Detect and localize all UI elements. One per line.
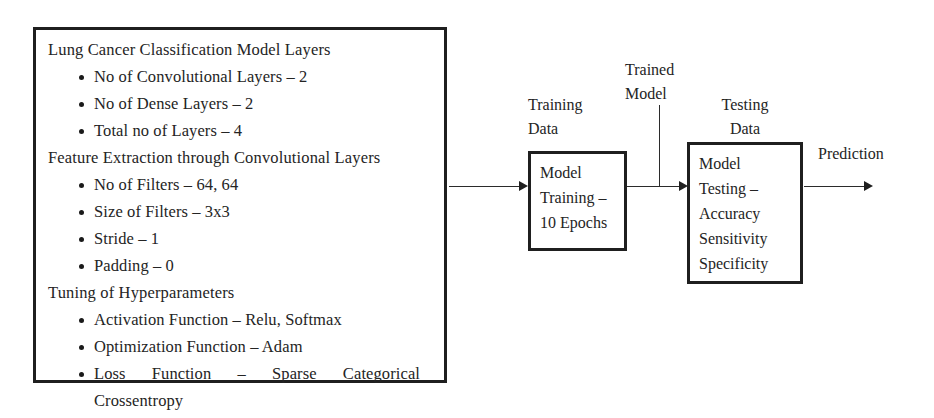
specification-content: Lung Cancer Classification Model Layers … bbox=[48, 36, 436, 414]
list-item: No of Convolutional Layers – 2 bbox=[48, 63, 436, 90]
list-item: Loss Function – Sparse Categorical Cross… bbox=[48, 360, 436, 414]
label-testing-data: Testing Data bbox=[687, 93, 803, 141]
list-item: Activation Function – Relu, Softmax bbox=[48, 306, 436, 333]
model-testing-line-1: Model bbox=[699, 151, 796, 176]
section-list-model-layers: No of Convolutional Layers – 2 No of Den… bbox=[48, 63, 436, 144]
model-testing-box: Model Testing – Accuracy Sensitivity Spe… bbox=[687, 142, 803, 284]
connector-training-to-testing bbox=[627, 186, 681, 187]
label-trained-model: Trained Model bbox=[625, 58, 674, 106]
connector-trained-model-leader bbox=[659, 105, 660, 186]
model-testing-line-3: Accuracy bbox=[699, 201, 796, 226]
section-list-hyperparameters: Activation Function – Relu, Softmax Opti… bbox=[48, 306, 436, 414]
connector-panel-to-training bbox=[449, 186, 521, 187]
section-heading-hyperparameters: Tuning of Hyperparameters bbox=[48, 279, 436, 306]
arrow-head-icon bbox=[519, 181, 528, 191]
label-training-data: Training Data bbox=[528, 93, 583, 141]
connector-testing-to-prediction bbox=[804, 186, 866, 187]
model-training-line-3: 10 Epochs bbox=[540, 210, 620, 235]
label-prediction: Prediction bbox=[818, 142, 884, 166]
list-item: Optimization Function – Adam bbox=[48, 333, 436, 360]
arrow-head-icon bbox=[864, 181, 873, 191]
model-testing-line-4: Sensitivity bbox=[699, 226, 796, 251]
section-heading-feature-extraction: Feature Extraction through Convolutional… bbox=[48, 144, 436, 171]
section-list-feature-extraction: No of Filters – 64, 64 Size of Filters –… bbox=[48, 171, 436, 279]
diagram-canvas: Lung Cancer Classification Model Layers … bbox=[0, 0, 934, 418]
list-item: No of Filters – 64, 64 bbox=[48, 171, 436, 198]
model-training-box: Model Training – 10 Epochs bbox=[528, 151, 627, 251]
list-item: No of Dense Layers – 2 bbox=[48, 90, 436, 117]
model-specification-panel: Lung Cancer Classification Model Layers … bbox=[33, 27, 447, 383]
model-training-box-text: Model Training – 10 Epochs bbox=[540, 160, 620, 235]
model-training-line-2: Training – bbox=[540, 185, 620, 210]
model-testing-box-text: Model Testing – Accuracy Sensitivity Spe… bbox=[699, 151, 796, 276]
list-item-line-2: Crossentropy bbox=[94, 387, 420, 414]
section-heading-model-layers: Lung Cancer Classification Model Layers bbox=[48, 36, 436, 63]
model-testing-line-5: Specificity bbox=[699, 251, 796, 276]
model-training-line-1: Model bbox=[540, 160, 620, 185]
list-item: Size of Filters – 3x3 bbox=[48, 198, 436, 225]
list-item: Padding – 0 bbox=[48, 252, 436, 279]
list-item: Stride – 1 bbox=[48, 225, 436, 252]
model-testing-line-2: Testing – bbox=[699, 176, 796, 201]
list-item-line-1: Loss Function – Sparse Categorical bbox=[94, 360, 420, 387]
list-item: Total no of Layers – 4 bbox=[48, 117, 436, 144]
